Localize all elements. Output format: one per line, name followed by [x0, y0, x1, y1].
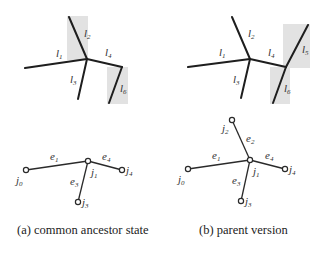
label-j2: j2	[220, 122, 229, 136]
node-j3	[75, 199, 80, 204]
figure: l1 l2 l3 l4 l6 l1 l2 l3 l4 l5 l6 e1 e3 e…	[0, 0, 318, 255]
node-j4	[282, 166, 287, 171]
label-l4: l4	[105, 46, 112, 60]
label-e2: e2	[246, 132, 255, 146]
panel-b-graph: e1 e2 e3 e4 j0 j1 j2 j3 j4	[176, 117, 296, 209]
label-j0: j0	[176, 173, 185, 187]
line-l4	[87, 59, 122, 67]
node-j4	[119, 167, 124, 172]
label-l1: l1	[56, 47, 63, 61]
line-l4	[250, 59, 286, 67]
panel-a-graph: e1 e3 e4 j0 j1 j3 j4	[14, 150, 133, 210]
label-l2: l2	[248, 27, 255, 41]
label-j4: j4	[124, 164, 133, 178]
label-j1: j1	[89, 166, 98, 180]
label-l4: l4	[268, 46, 275, 60]
panel-b-lines: l1 l2 l3 l4 l5 l6	[188, 17, 310, 104]
label-j3: j3	[80, 196, 89, 210]
caption-a: (a) common ancestor state	[17, 223, 149, 237]
node-j2	[229, 117, 234, 122]
label-e4: e4	[265, 149, 274, 163]
label-e1: e1	[212, 149, 220, 163]
node-j1	[85, 158, 90, 163]
line-l1	[25, 59, 87, 68]
line-l3	[241, 59, 250, 98]
line-l3	[78, 59, 87, 99]
node-j0	[185, 166, 190, 171]
panel-a-lines: l1 l2 l3 l4 l6	[25, 16, 128, 104]
label-e1: e1	[50, 150, 58, 164]
label-l1: l1	[219, 46, 226, 60]
node-j1	[247, 157, 252, 162]
label-e3: e3	[70, 175, 79, 189]
label-j4: j4	[287, 163, 296, 177]
label-j0: j0	[14, 174, 23, 188]
label-l3: l3	[70, 73, 77, 87]
caption-b: (b) parent version	[199, 223, 289, 237]
line-l1	[188, 59, 250, 67]
label-l3: l3	[233, 73, 240, 87]
label-e3: e3	[232, 174, 241, 188]
node-j3	[238, 198, 243, 203]
label-j3: j3	[243, 195, 252, 209]
node-j0	[23, 167, 28, 172]
label-e4: e4	[102, 150, 111, 164]
label-j1: j1	[251, 165, 260, 179]
